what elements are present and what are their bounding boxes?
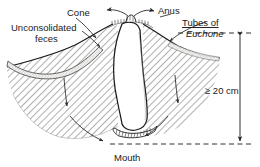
label-depth: ≥ 20 cm [205, 85, 239, 96]
diagram-figure: Cone Unconsolidated feces Anus Tubes of … [0, 0, 260, 167]
label-unconsolidated-line2: feces [35, 33, 58, 44]
label-tubes-of: Tubes of [182, 17, 219, 28]
label-mouth: Mouth [114, 152, 140, 163]
label-unconsolidated-line1: Unconsolidated [11, 22, 77, 33]
label-cone: Cone [67, 7, 90, 18]
label-euchone: Euchone [186, 28, 224, 39]
label-anus: Anus [158, 5, 180, 16]
